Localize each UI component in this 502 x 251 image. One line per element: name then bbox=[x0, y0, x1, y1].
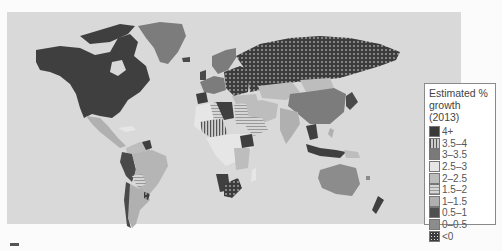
legend-item: 1–1.5 bbox=[429, 196, 491, 208]
swatch-3-to-3-5 bbox=[429, 149, 440, 160]
region-australia bbox=[318, 164, 360, 196]
legend-item: 4+ bbox=[429, 126, 491, 138]
legend-item: 0.5–1 bbox=[429, 207, 491, 219]
swatch-negative bbox=[429, 231, 440, 242]
legend-label: 0–0.5 bbox=[442, 219, 467, 230]
swatch-0-5-to-1 bbox=[429, 207, 440, 218]
region-philippines bbox=[328, 128, 334, 138]
legend-item: 3.5–4 bbox=[429, 138, 491, 150]
region-korea-japan bbox=[346, 92, 358, 110]
region-new-guinea bbox=[344, 150, 360, 158]
swatch-4-plus bbox=[429, 126, 440, 137]
region-uk bbox=[200, 70, 206, 80]
legend-item: 2.5–3 bbox=[429, 161, 491, 173]
swatch-1-5-to-2 bbox=[429, 184, 440, 195]
legend-label: 4+ bbox=[442, 126, 453, 137]
region-new-zealand bbox=[372, 196, 384, 214]
footer-mark bbox=[10, 243, 19, 246]
legend-title-line2: growth (2013) bbox=[429, 99, 491, 123]
region-pacific-islands bbox=[366, 176, 370, 180]
region-southeast-asia bbox=[306, 124, 318, 140]
region-mexico bbox=[86, 116, 126, 148]
region-india bbox=[280, 108, 300, 144]
legend-item: 1.5–2 bbox=[429, 184, 491, 196]
swatch-2-5-to-3 bbox=[429, 161, 440, 172]
legend-label: 1.5–2 bbox=[442, 184, 467, 195]
legend-label: 2.5–3 bbox=[442, 161, 467, 172]
legend-item: <0 bbox=[429, 230, 491, 242]
region-north-america bbox=[36, 34, 150, 118]
legend-label: <0 bbox=[442, 231, 453, 242]
legend-label: 1–1.5 bbox=[442, 196, 467, 207]
legend-label: 0.5–1 bbox=[442, 207, 467, 218]
legend-title-line1: Estimated % bbox=[429, 87, 491, 99]
region-madagascar bbox=[251, 168, 256, 182]
region-east-africa bbox=[234, 148, 250, 170]
legend-label: 2–2.5 bbox=[442, 173, 467, 184]
swatch-0-to-0-5 bbox=[429, 219, 440, 230]
legend-item: 3–3.5 bbox=[429, 149, 491, 161]
legend-item: 2–2.5 bbox=[429, 172, 491, 184]
map-legend: Estimated % growth (2013) 4+ 3.5–4 3–3.5… bbox=[424, 83, 496, 225]
region-caribbean bbox=[118, 126, 136, 132]
swatch-1-to-1-5 bbox=[429, 196, 440, 207]
region-iberia bbox=[196, 92, 208, 104]
region-ethiopia bbox=[240, 134, 254, 148]
legend-item: 0–0.5 bbox=[429, 219, 491, 231]
legend-label: 3–3.5 bbox=[442, 149, 467, 160]
region-indonesia bbox=[306, 144, 346, 158]
region-iceland bbox=[182, 57, 190, 62]
swatch-2-to-2-5 bbox=[429, 173, 440, 184]
region-greenland bbox=[138, 22, 186, 64]
legend-label: 3.5–4 bbox=[442, 138, 467, 149]
swatch-3-5-to-4 bbox=[429, 138, 440, 149]
legend-title: Estimated % growth (2013) bbox=[429, 87, 491, 123]
